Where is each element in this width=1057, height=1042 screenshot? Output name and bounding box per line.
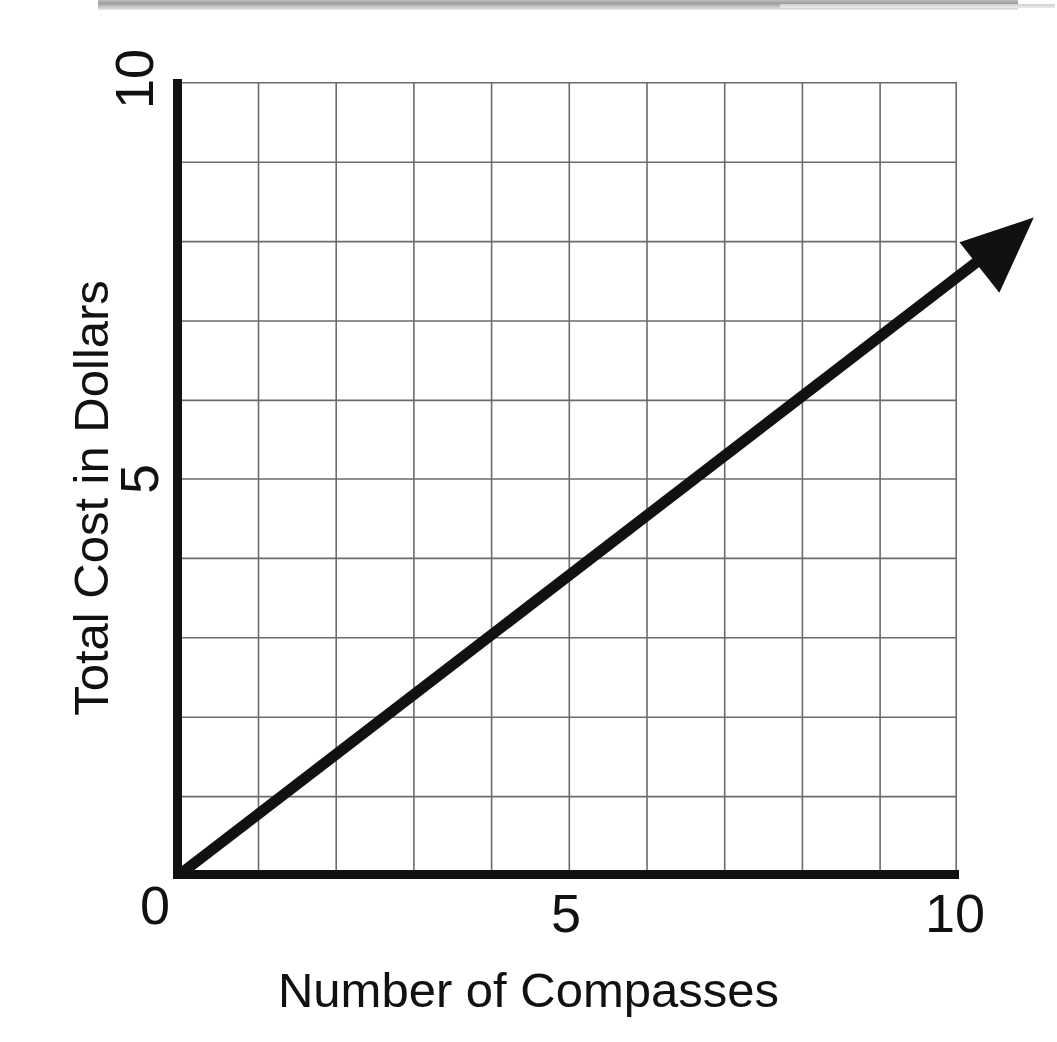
plot-area <box>180 82 957 876</box>
y-axis-line <box>173 79 182 879</box>
grid-lines <box>180 82 957 876</box>
x-axis-line <box>173 870 959 879</box>
y-axis-title: Total Cost in Dollars <box>63 218 119 778</box>
x-tick-label-5: 5 <box>551 886 581 940</box>
x-tick-label-10: 10 <box>925 886 985 940</box>
y-tick-label-5: 5 <box>112 464 166 494</box>
chart-figure: 10 5 0 5 10 Total Cost in Dollars Number… <box>0 0 1057 1042</box>
x-tick-label-0: 0 <box>140 878 170 932</box>
y-tick-label-10: 10 <box>107 49 161 109</box>
x-axis-title: Number of Compasses <box>0 962 1057 1018</box>
